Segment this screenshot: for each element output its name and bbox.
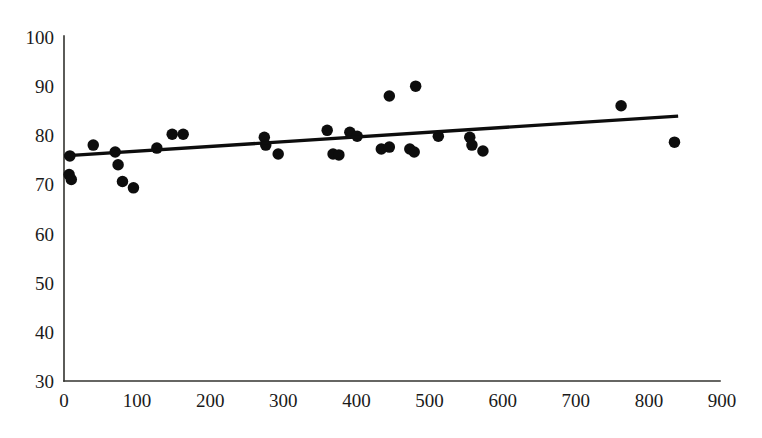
x-tick-label: 300 — [269, 391, 298, 410]
x-tick-label: 400 — [342, 391, 371, 410]
data-point — [166, 129, 178, 141]
y-tick-label: 30 — [35, 372, 54, 391]
y-tick-label: 90 — [35, 77, 54, 96]
x-tick-label: 800 — [635, 391, 664, 410]
y-tick-label: 40 — [35, 322, 54, 341]
x-tick-label: 700 — [562, 391, 591, 410]
data-point — [87, 139, 99, 151]
data-point — [117, 176, 128, 188]
data-point — [466, 139, 478, 151]
y-tick-label: 60 — [35, 224, 54, 243]
data-point — [177, 129, 189, 141]
scatter-plot-figure: 0100200300400500600700800900 30405060708… — [0, 0, 762, 438]
data-point — [112, 159, 124, 171]
data-point — [321, 125, 333, 137]
data-point — [669, 136, 681, 148]
y-tick-label: 70 — [35, 175, 54, 194]
data-point — [128, 182, 140, 194]
data-point — [615, 100, 627, 112]
data-point — [384, 141, 396, 153]
x-tick-label: 900 — [708, 391, 737, 410]
data-point — [272, 148, 284, 160]
y-tick-label: 50 — [35, 273, 54, 292]
x-tick-label: 500 — [415, 391, 444, 410]
x-tick-label: 0 — [59, 391, 69, 410]
plot-canvas — [0, 0, 762, 438]
data-point — [66, 174, 78, 186]
data-point — [384, 90, 396, 102]
y-tick-label: 100 — [26, 27, 55, 46]
data-point — [477, 145, 489, 157]
data-point — [333, 149, 345, 161]
trend-line — [64, 116, 678, 156]
x-tick-label: 200 — [196, 391, 225, 410]
axis-lines — [64, 36, 720, 381]
y-tick-label: 80 — [35, 126, 54, 145]
data-point — [408, 146, 420, 158]
x-tick-label: 600 — [488, 391, 517, 410]
data-point — [410, 80, 422, 92]
x-tick-label: 100 — [123, 391, 152, 410]
